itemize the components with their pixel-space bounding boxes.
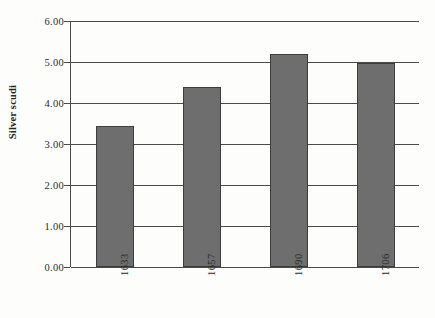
y-tick-label: 1.00 <box>24 221 64 232</box>
y-tick-label: 0.00 <box>24 262 64 273</box>
plot-area <box>70 21 418 267</box>
y-tick-label: 4.00 <box>24 98 64 109</box>
gridline <box>71 21 419 22</box>
y-tick-label: 5.00 <box>24 57 64 68</box>
y-tick-mark <box>64 267 70 268</box>
x-tick-label: 1657 <box>206 232 217 276</box>
x-tick-label: 1633 <box>119 232 130 276</box>
x-tick-label: 1706 <box>380 232 391 276</box>
x-tick-label: 1690 <box>293 232 304 276</box>
y-tick-label: 6.00 <box>24 16 64 27</box>
y-tick-label: 2.00 <box>24 180 64 191</box>
y-axis-title: Silver scudi <box>5 62 21 162</box>
bar-chart-figure: Silver scudi 0.001.002.003.004.005.006.0… <box>0 0 435 318</box>
y-tick-label: 3.00 <box>24 139 64 150</box>
